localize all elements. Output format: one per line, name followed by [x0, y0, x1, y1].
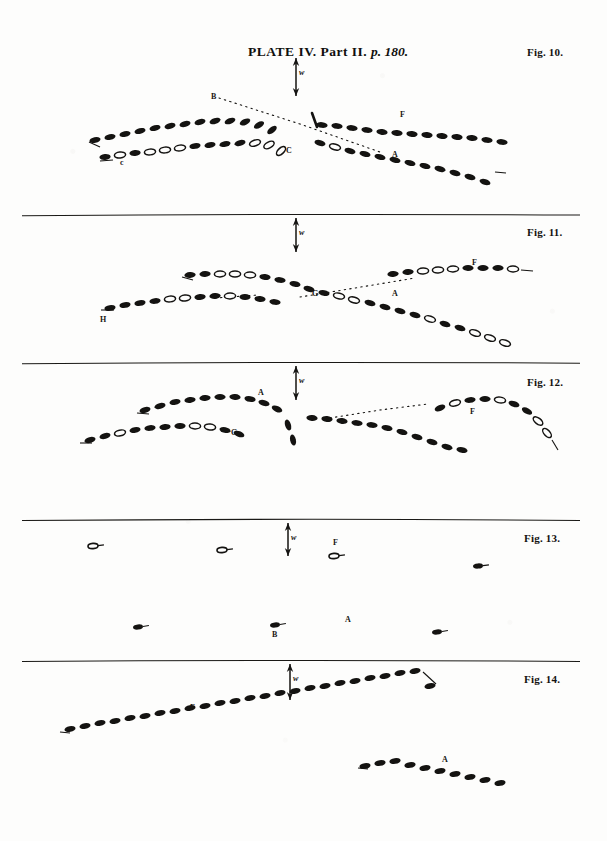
- wind-arrow-fig10: [293, 58, 299, 96]
- point-label-fig11-f: F: [472, 258, 477, 267]
- fig10-chain-left-upper: [89, 116, 278, 144]
- point-label-fig11-a: A: [392, 289, 398, 298]
- plate-drawing-canvas: [0, 0, 607, 841]
- title-plate-word: PLATE: [248, 44, 295, 59]
- point-label-fig13-f: F: [333, 538, 338, 547]
- plate-illustration: PLATE IV. Part II. p. 180. Fig. 10. Fig.…: [0, 0, 607, 841]
- page-title: PLATE IV. Part II. p. 180.: [248, 44, 408, 60]
- fig12-chain-right-upper: [306, 415, 468, 454]
- fig-label-11: Fig. 11.: [527, 226, 563, 238]
- fig11-trace-group: [101, 265, 533, 348]
- point-label-fig14-a: A: [442, 755, 448, 764]
- fig12-trace-group: [80, 394, 558, 454]
- fig10-trace-group: [89, 98, 508, 186]
- wind-label-fig11: w: [299, 228, 304, 237]
- point-label-fig11-h: H: [100, 315, 106, 324]
- fig14-chain-upper: [64, 667, 436, 733]
- fig-label-10: Fig. 10.: [527, 46, 563, 58]
- point-label-fig10-c-lower: c: [120, 158, 124, 167]
- title-part: Part II.: [320, 44, 367, 59]
- fig10-chain-right-lower: [314, 139, 491, 187]
- point-label-fig12-g: G: [231, 428, 237, 437]
- fig-label-12: Fig. 12.: [527, 376, 563, 388]
- point-label-fig12-a: A: [258, 388, 264, 397]
- point-label-fig11-g: G: [312, 289, 318, 298]
- point-label-fig10-b: B: [211, 92, 216, 101]
- fig-label-13: Fig. 13.: [524, 532, 560, 544]
- point-label-fig10-c: C: [286, 146, 292, 155]
- fig12-chain-right-hump: [434, 396, 553, 439]
- fig14-chain-lower: [359, 757, 506, 786]
- fig10-chain-right-upper: [316, 121, 508, 145]
- point-label-fig13-a: A: [345, 615, 351, 624]
- point-label-fig13-b: B: [272, 630, 277, 639]
- point-label-fig14-f: F: [190, 703, 195, 712]
- fig14-trace-group: [60, 667, 506, 787]
- point-label-fig10-a: A: [392, 150, 398, 159]
- fig11-chain-upper-left: [184, 271, 315, 293]
- point-label-fig10-f: F: [400, 110, 405, 119]
- title-plate-number: IV.: [298, 44, 316, 59]
- fig11-chain-upper-right: [387, 265, 518, 277]
- fig-label-14: Fig. 14.: [524, 673, 560, 685]
- title-page-ref: p. 180.: [371, 44, 408, 59]
- fig10-chain-left-lower: [99, 139, 287, 161]
- fig12-chain-left-lower: [84, 423, 245, 444]
- wind-label-fig10: w: [299, 68, 304, 77]
- fig13-scattered-marks: [88, 543, 489, 635]
- wind-label-fig13: w: [291, 533, 296, 542]
- wind-label-fig14: w: [293, 674, 298, 683]
- wind-label-fig12: w: [299, 376, 304, 385]
- fig11-chain-crossing: [318, 289, 360, 304]
- point-label-fig12-f: F: [470, 407, 475, 416]
- fig11-chain-lower-right: [364, 299, 511, 348]
